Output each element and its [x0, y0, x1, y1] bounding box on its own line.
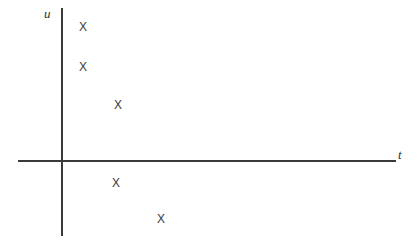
t-axis-label: t [398, 148, 402, 161]
data-point-marker: X [79, 21, 87, 33]
data-point-marker: X [157, 213, 165, 225]
u-axis-label: u [44, 7, 51, 20]
data-point-marker: X [112, 177, 120, 189]
data-point-marker: X [114, 99, 122, 111]
axes-canvas [0, 0, 419, 251]
data-point-marker: X [79, 61, 87, 73]
scatter-plot-figure: u t XXXXX [0, 0, 419, 251]
